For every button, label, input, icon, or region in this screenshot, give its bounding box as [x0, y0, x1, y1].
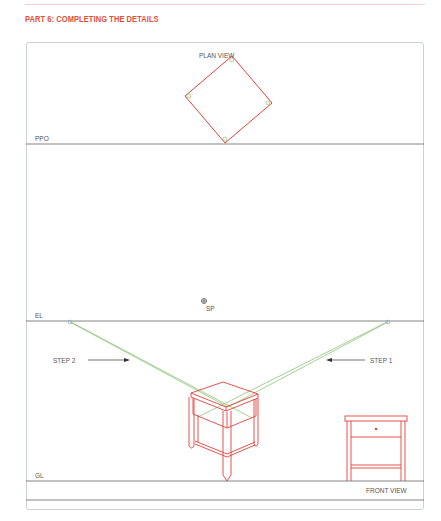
- plan-corner-markers: [187, 58, 270, 141]
- el-label: EL: [35, 312, 43, 319]
- front-view-label: FRONT VIEW: [366, 487, 408, 494]
- sp-label: SP: [206, 305, 215, 312]
- step-2-arrow: [88, 358, 130, 362]
- ppo-label: PPO: [35, 135, 49, 142]
- construction-lines: [70, 322, 388, 418]
- gl-label: GL: [35, 472, 44, 479]
- drawer-knob: [375, 428, 377, 430]
- step-1-arrow: [326, 358, 365, 362]
- perspective-drawing: PLAN VIEW PPO SP EL STEP 2 STEP 1: [0, 0, 441, 521]
- step-1-label: STEP 1: [370, 357, 393, 364]
- plan-view-square: [185, 56, 272, 143]
- step-2-label: STEP 2: [53, 357, 76, 364]
- front-view-nightstand: [345, 416, 407, 481]
- station-point-icon: [202, 299, 207, 304]
